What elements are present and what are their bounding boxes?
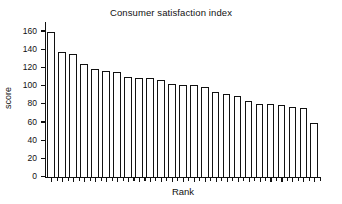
x-axis-tick bbox=[314, 178, 315, 182]
x-axis-tick bbox=[90, 178, 91, 181]
x-axis-tick bbox=[84, 178, 85, 182]
x-axis-tick bbox=[117, 178, 118, 182]
y-axis-tick-label: 120 bbox=[11, 63, 37, 72]
chart-title: Consumer satisfaction index bbox=[0, 7, 342, 18]
y-axis-tick-label: 60 bbox=[11, 118, 37, 127]
x-axis-tick bbox=[57, 178, 58, 181]
x-axis-tick bbox=[139, 178, 140, 182]
y-axis-tick bbox=[41, 30, 45, 31]
x-axis-tick bbox=[51, 178, 52, 182]
bar[interactable] bbox=[47, 32, 55, 177]
x-axis-tick bbox=[133, 178, 134, 181]
x-axis-tick bbox=[276, 178, 277, 181]
y-axis-tick bbox=[41, 121, 45, 122]
x-axis-tick bbox=[216, 178, 217, 182]
chart-figure: Consumer satisfaction index score 020406… bbox=[0, 0, 342, 204]
y-axis-tick bbox=[41, 67, 45, 68]
x-axis-tick bbox=[106, 178, 107, 182]
bar[interactable] bbox=[223, 94, 231, 177]
y-axis-tick bbox=[41, 158, 45, 159]
bar[interactable] bbox=[234, 96, 242, 177]
x-axis-tick bbox=[177, 178, 178, 181]
x-axis-tick bbox=[292, 178, 293, 182]
x-axis-tick bbox=[123, 178, 124, 181]
x-axis-tick bbox=[210, 178, 211, 181]
x-axis-tick bbox=[155, 178, 156, 181]
bar[interactable] bbox=[310, 123, 318, 177]
bar[interactable] bbox=[91, 69, 99, 176]
x-axis-tick bbox=[112, 178, 113, 181]
bar[interactable] bbox=[124, 77, 132, 177]
bar[interactable] bbox=[289, 107, 297, 176]
bar[interactable] bbox=[168, 84, 176, 177]
x-axis-tick bbox=[150, 178, 151, 182]
bar[interactable] bbox=[102, 71, 110, 176]
x-axis-tick bbox=[309, 178, 310, 181]
x-axis-tick bbox=[270, 178, 271, 182]
x-axis-tick bbox=[205, 178, 206, 182]
y-axis-tick-label: 20 bbox=[11, 154, 37, 163]
bar[interactable] bbox=[179, 85, 187, 177]
bar[interactable] bbox=[256, 104, 264, 177]
x-axis-tick bbox=[221, 178, 222, 181]
y-axis-tick bbox=[41, 176, 45, 177]
x-axis-tick bbox=[161, 178, 162, 182]
bar[interactable] bbox=[300, 108, 308, 176]
x-axis-tick bbox=[194, 178, 195, 182]
x-axis-title: Rank bbox=[46, 186, 320, 197]
x-axis-tick bbox=[281, 178, 282, 182]
y-axis-tick-label: 160 bbox=[11, 27, 37, 36]
bar[interactable] bbox=[80, 64, 88, 177]
bar[interactable] bbox=[267, 104, 275, 177]
bar[interactable] bbox=[58, 52, 66, 177]
y-axis-tick-label: 100 bbox=[11, 81, 37, 90]
bar[interactable] bbox=[157, 80, 165, 176]
y-axis-tick bbox=[41, 49, 45, 50]
bar[interactable] bbox=[278, 105, 286, 177]
x-axis-tick bbox=[128, 178, 129, 182]
x-axis-tick bbox=[254, 178, 255, 181]
x-axis-tick bbox=[79, 178, 80, 181]
x-axis-tick bbox=[73, 178, 74, 182]
x-axis-tick bbox=[303, 178, 304, 182]
x-axis-tick bbox=[188, 178, 189, 181]
x-axis-tick bbox=[95, 178, 96, 182]
x-axis-tick bbox=[260, 178, 261, 182]
x-axis-tick bbox=[172, 178, 173, 182]
bar[interactable] bbox=[212, 92, 220, 177]
y-axis-tick-label: 0 bbox=[11, 172, 37, 181]
y-axis-tick-label: 80 bbox=[11, 99, 37, 108]
x-axis-tick bbox=[166, 178, 167, 181]
y-axis-tick-label: 40 bbox=[11, 136, 37, 145]
bar[interactable] bbox=[135, 78, 143, 176]
x-axis-tick bbox=[68, 178, 69, 181]
bar[interactable] bbox=[190, 85, 198, 177]
x-axis-tick bbox=[298, 178, 299, 181]
x-axis-tick bbox=[238, 178, 239, 182]
x-axis-tick bbox=[265, 178, 266, 181]
y-axis-tick bbox=[41, 103, 45, 104]
x-axis-tick bbox=[320, 178, 321, 181]
x-axis-tick bbox=[287, 178, 288, 181]
x-axis-tick bbox=[101, 178, 102, 181]
x-axis-tick bbox=[249, 178, 250, 182]
x-axis-tick bbox=[243, 178, 244, 181]
plot-area bbox=[46, 22, 320, 177]
x-axis-tick bbox=[232, 178, 233, 181]
x-axis-tick bbox=[227, 178, 228, 182]
x-axis-tick bbox=[144, 178, 145, 181]
x-axis-tick bbox=[62, 178, 63, 182]
bar[interactable] bbox=[146, 78, 154, 176]
bar[interactable] bbox=[113, 72, 121, 177]
bar[interactable] bbox=[69, 54, 77, 177]
bar[interactable] bbox=[201, 87, 209, 176]
bar[interactable] bbox=[245, 101, 253, 176]
y-axis-tick bbox=[41, 140, 45, 141]
x-axis-tick bbox=[199, 178, 200, 181]
y-axis-tick bbox=[41, 85, 45, 86]
y-axis-tick-label: 140 bbox=[11, 45, 37, 54]
x-axis-tick bbox=[183, 178, 184, 182]
